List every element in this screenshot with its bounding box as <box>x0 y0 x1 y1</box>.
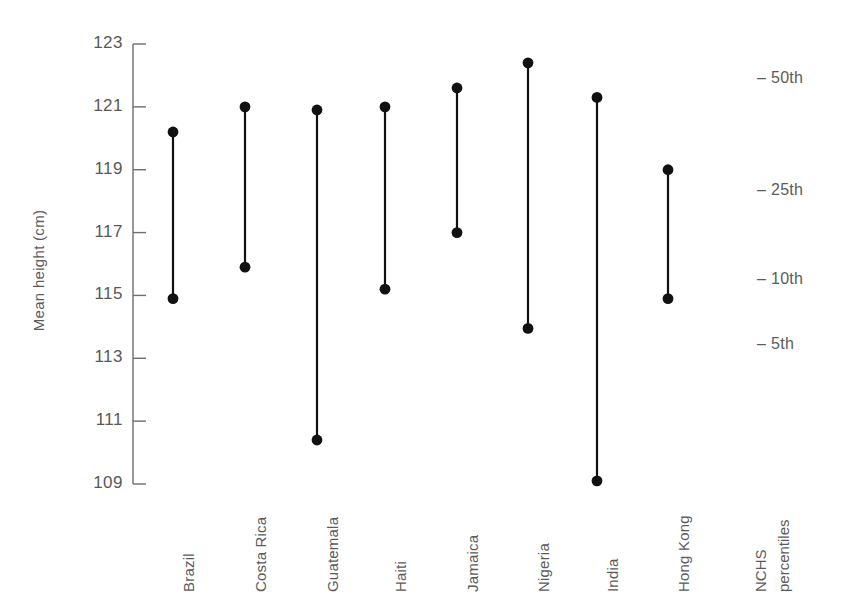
range-marker-brazil <box>168 127 179 304</box>
range-marker-hong-kong <box>663 164 674 304</box>
y-axis-line-and-ticks <box>133 44 146 484</box>
chart-figure: Mean height (cm) 10911111311511711912112… <box>0 0 851 613</box>
chart-plot-area <box>0 0 851 613</box>
range-marker-jamaica <box>452 83 463 238</box>
range-marker-nigeria <box>523 57 534 333</box>
range-marker-haiti <box>380 101 391 294</box>
range-marker-india <box>592 92 603 486</box>
data-series-group <box>168 57 674 486</box>
range-marker-costa-rica <box>240 101 251 272</box>
range-marker-guatemala <box>312 105 323 446</box>
